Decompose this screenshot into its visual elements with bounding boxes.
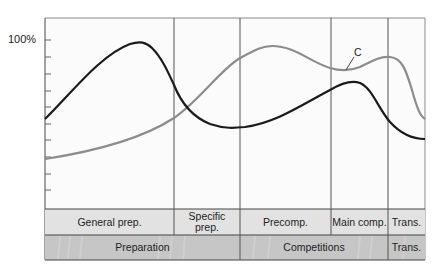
phase-precomp: Precomp. bbox=[240, 209, 331, 235]
period-competitions-label: Competitions bbox=[283, 242, 344, 253]
period-preparation: Preparation bbox=[45, 235, 240, 260]
phase-main-comp: Main comp. bbox=[331, 209, 388, 235]
y-axis-100-label: 100% bbox=[8, 33, 36, 45]
phase-specific-prep-line2: prep. bbox=[195, 222, 219, 233]
period-preparation-label: Preparation bbox=[115, 242, 169, 253]
phase-general-prep: General prep. bbox=[45, 209, 174, 235]
period-transition: Trans. bbox=[388, 235, 425, 260]
phase-precomp-label: Precomp. bbox=[263, 217, 308, 228]
plot-area bbox=[45, 18, 425, 209]
phase-main-comp-label: Main comp. bbox=[332, 217, 386, 228]
phase-transition-label: Trans. bbox=[392, 217, 421, 228]
curve-c-label: C bbox=[354, 46, 362, 58]
period-transition-label: Trans. bbox=[392, 242, 421, 253]
period-competitions: Competitions bbox=[240, 235, 388, 260]
phase-specific-prep: Specific prep. bbox=[174, 209, 240, 235]
phase-general-prep-label: General prep. bbox=[77, 217, 141, 228]
phase-transition: Trans. bbox=[388, 209, 425, 235]
